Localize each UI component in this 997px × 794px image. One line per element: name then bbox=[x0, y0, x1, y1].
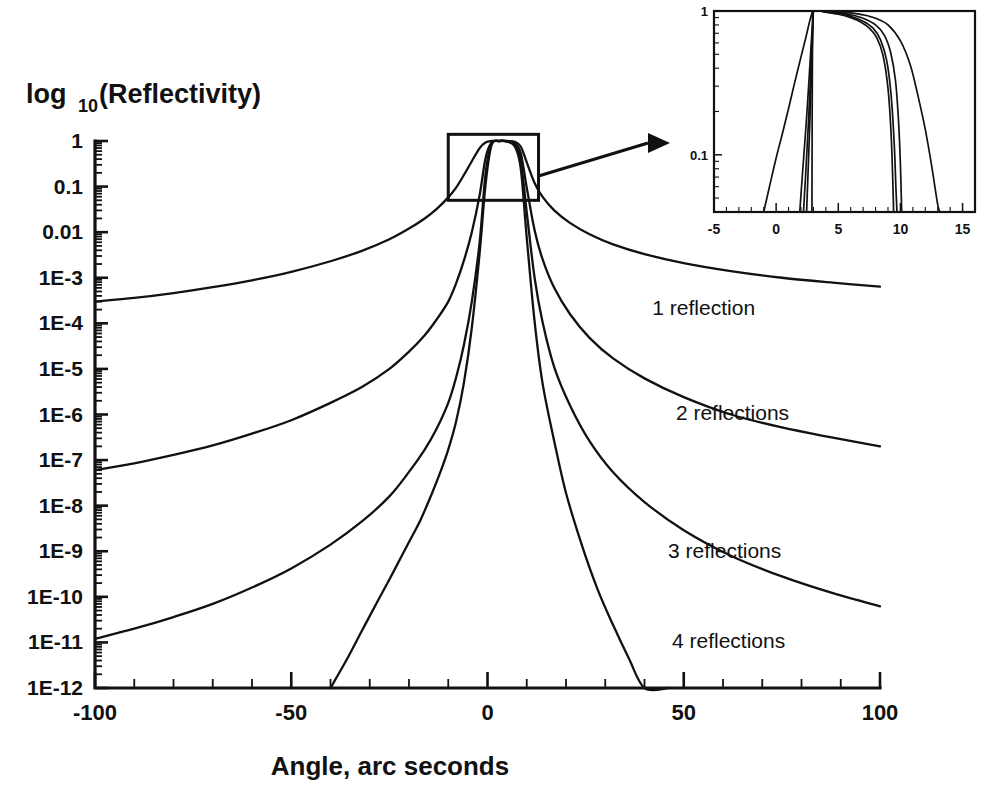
inset-frame bbox=[714, 11, 975, 212]
x-tick-label: 50 bbox=[672, 700, 696, 725]
x-tick-label: -50 bbox=[275, 700, 307, 725]
y-tick-label: 1E-11 bbox=[28, 630, 83, 653]
y-tick-label: 1E-7 bbox=[39, 448, 83, 471]
y-tick-label: 0.01 bbox=[42, 220, 83, 243]
reflectivity-figure: log 10 (Reflectivity) 10.10.011E-31E-41E… bbox=[0, 0, 997, 794]
y-tick-label: 1E-8 bbox=[39, 494, 84, 517]
series-label-2: 2 reflections bbox=[676, 401, 789, 424]
inset-y-tick-label: 0.1 bbox=[690, 148, 708, 163]
y-tick-label: 1E-9 bbox=[39, 539, 83, 562]
y-tick-label: 1 bbox=[71, 129, 83, 152]
inset-x-tick-label: 5 bbox=[834, 221, 842, 237]
y-axis-title-base: log bbox=[26, 79, 67, 109]
x-tick-label: 0 bbox=[481, 700, 493, 725]
y-tick-label: 1E-10 bbox=[27, 585, 83, 608]
inset-x-tick-label: -5 bbox=[708, 221, 721, 237]
y-tick-label: 1E-6 bbox=[39, 403, 83, 426]
y-tick-label: 1E-12 bbox=[27, 676, 83, 699]
y-axis-title-subscript: 10 bbox=[78, 96, 98, 116]
y-tick-label: 0.1 bbox=[54, 175, 84, 198]
chart-canvas: log 10 (Reflectivity) 10.10.011E-31E-41E… bbox=[0, 0, 997, 794]
inset-plot[interactable]: 10.1-5051015 bbox=[690, 4, 975, 237]
inset-y-tick-label: 1 bbox=[701, 4, 708, 19]
y-tick-label: 1E-5 bbox=[39, 357, 84, 380]
inset-x-tick-label: 15 bbox=[955, 221, 971, 237]
series-label-3: 3 reflections bbox=[668, 539, 781, 562]
y-tick-label: 1E-4 bbox=[39, 311, 84, 334]
inset-x-tick-label: 10 bbox=[893, 221, 909, 237]
inset-x-tick-label: 0 bbox=[772, 221, 780, 237]
y-tick-label: 1E-3 bbox=[39, 266, 83, 289]
x-axis-title: Angle, arc seconds bbox=[271, 751, 509, 781]
series-label-1: 1 reflection bbox=[652, 296, 755, 319]
series-label-4: 4 reflections bbox=[672, 629, 785, 652]
y-axis-title-rest: (Reflectivity) bbox=[99, 79, 261, 109]
x-tick-label: 100 bbox=[862, 700, 899, 725]
x-tick-label: -100 bbox=[73, 700, 117, 725]
